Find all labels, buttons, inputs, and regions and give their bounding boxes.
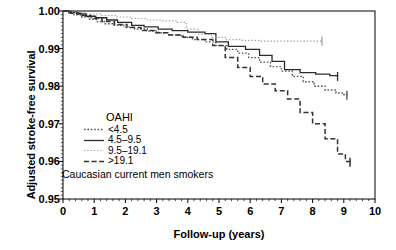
survival-curve: [63, 11, 338, 76]
legend-entry-list: <4.54.5–9.59.5–19.1>19.1: [84, 125, 147, 167]
legend-entry-label: 4.5–9.5: [108, 135, 141, 146]
legend-line-swatch: [84, 125, 104, 134]
legend-line-swatch: [84, 146, 104, 155]
legend-entry: 4.5–9.5: [84, 135, 147, 146]
legend-entry: >19.1: [84, 156, 147, 167]
legend-entry-label: >19.1: [108, 156, 133, 167]
survival-curve: [63, 11, 347, 95]
plot-area: [0, 0, 396, 250]
survival-curve: [63, 11, 322, 41]
legend: OAHI <4.54.5–9.59.5–19.1>19.1: [84, 112, 147, 167]
chart-annotation: Caucasian current men smokers: [62, 168, 213, 180]
legend-title: OAHI: [106, 112, 147, 123]
figure-container: Adjusted stroke-free survival 1.000.990.…: [0, 0, 396, 250]
legend-line-swatch: [84, 136, 104, 145]
legend-line-swatch: [84, 157, 104, 166]
